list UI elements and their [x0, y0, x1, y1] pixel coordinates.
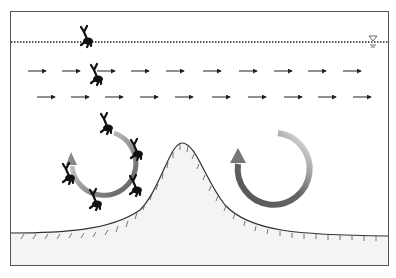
diagram-canvas [0, 0, 396, 278]
larva-icon [101, 113, 113, 134]
larva-icon [91, 64, 103, 85]
left-eddy-arrow [66, 133, 136, 195]
larva-icon [81, 26, 93, 47]
water-level-symbol [369, 36, 377, 47]
diagram-stage [0, 0, 396, 278]
larva-icon [130, 175, 142, 196]
right-eddy-arrow [230, 133, 310, 205]
